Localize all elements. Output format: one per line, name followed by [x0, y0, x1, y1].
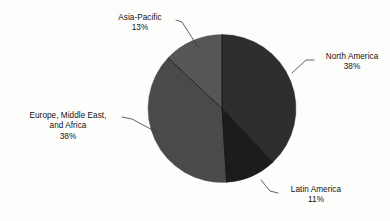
pie-label-asia-pacific-value: 13%: [104, 23, 176, 33]
pie-label-europe-name-line-1: Europe, Middle East,: [10, 111, 126, 121]
pie-label-europe-middle-east-africa: Europe, Middle East, and Africa 38%: [10, 111, 126, 142]
pie-label-asia-pacific: Asia-Pacific 13%: [104, 13, 176, 34]
pie-label-europe-value: 38%: [10, 132, 126, 142]
pie-chart-figure: Asia-Pacific 13% North America 38% Europ…: [0, 0, 390, 221]
pie-label-north-america-name: North America: [326, 52, 379, 61]
leader-line-north-america: [292, 60, 314, 73]
pie-label-north-america: North America 38%: [316, 52, 388, 73]
pie-label-latin-america: Latin America 11%: [280, 185, 352, 206]
pie-label-north-america-value: 38%: [316, 62, 388, 72]
pie-label-europe-name-line-2: and Africa: [10, 121, 126, 131]
pie-label-latin-america-name: Latin America: [291, 185, 341, 194]
pie-label-latin-america-value: 11%: [280, 195, 352, 205]
pie-label-asia-pacific-name: Asia-Pacific: [118, 13, 161, 22]
leader-line-latin-america: [261, 180, 278, 193]
